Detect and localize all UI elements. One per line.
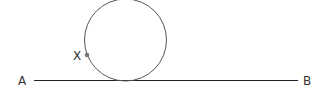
diagram-canvas: A B X [0,0,324,97]
label-x: X [73,49,81,63]
label-a: A [18,74,27,88]
circle [85,0,167,81]
point-x [85,53,90,58]
label-b: B [303,74,311,88]
